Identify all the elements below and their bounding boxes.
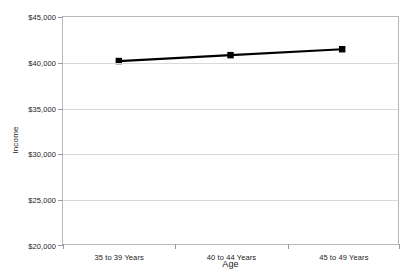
data-point-marker (339, 46, 345, 52)
line-chart: Income $20,000$25,000$30,000$35,000$40,0… (0, 0, 411, 280)
y-axis-tick (58, 200, 63, 201)
data-point-marker (227, 52, 233, 58)
x-axis-tick (288, 244, 289, 249)
y-axis-tick-label: $40,000 (28, 58, 56, 67)
y-axis-tick (58, 154, 63, 155)
y-axis-tick (58, 109, 63, 110)
plot-area: $20,000$25,000$30,000$35,000$40,000$45,0… (62, 16, 399, 245)
y-axis-tick-label: $30,000 (28, 150, 56, 159)
y-axis-tick-label: $20,000 (28, 242, 56, 251)
x-axis-tick (63, 244, 64, 249)
x-axis-title: Age (62, 259, 399, 269)
y-axis-tick-label: $45,000 (28, 13, 56, 22)
x-axis-tick (399, 244, 400, 249)
gridline-horizontal (63, 154, 398, 155)
y-axis-tick-label: $25,000 (28, 196, 56, 205)
y-axis-title: Income (8, 0, 24, 280)
gridline-horizontal (63, 200, 398, 201)
y-axis-tick (58, 17, 63, 18)
y-axis-tick (58, 63, 63, 64)
gridline-horizontal (63, 63, 398, 64)
series-line-income (63, 17, 398, 244)
y-axis-tick-label: $35,000 (28, 104, 56, 113)
gridline-horizontal (63, 109, 398, 110)
x-axis-tick (175, 244, 176, 249)
